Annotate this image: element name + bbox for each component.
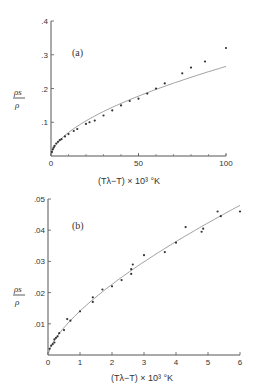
data-point (121, 279, 123, 281)
fit-line (51, 66, 226, 156)
data-point (146, 92, 148, 94)
x-tick-label: 0 (49, 159, 54, 168)
data-point (92, 301, 94, 303)
data-point (58, 332, 60, 334)
data-point (130, 273, 132, 275)
y-tick-label: .04 (34, 226, 46, 235)
svg-text:ρs: ρs (13, 87, 22, 97)
data-point (79, 310, 81, 312)
data-point (92, 296, 94, 298)
data-point (60, 138, 62, 140)
data-point (129, 100, 131, 102)
data-point (137, 98, 139, 100)
data-point (57, 141, 59, 143)
y-tick-label: .4 (41, 17, 48, 26)
figure: (a) ρs ρ .1.2.3.4050100 (Tλ−T) × 10³ °K … (0, 0, 268, 389)
y-tick-label: .01 (34, 320, 46, 329)
data-point (50, 345, 52, 347)
data-point (53, 338, 55, 340)
y-tick-label: .1 (41, 118, 48, 127)
data-point (67, 133, 69, 135)
data-point (225, 47, 227, 49)
data-point (73, 130, 75, 132)
data-point (66, 318, 68, 320)
y-tick-label: .05 (34, 195, 46, 204)
y-axis-label-b: ρs ρ (13, 284, 25, 307)
data-point (164, 82, 166, 84)
x-tick-label: 100 (219, 159, 233, 168)
y-axis-label-a: ρs ρ (13, 87, 25, 110)
y-tick-label: .02 (34, 289, 46, 298)
data-point (63, 329, 65, 331)
data-point (111, 285, 113, 287)
data-point (101, 288, 103, 290)
data-point (217, 210, 219, 212)
x-tick-label: 50 (134, 159, 143, 168)
data-point (201, 231, 203, 233)
x-tick-label: 5 (206, 358, 211, 367)
chart-panel-b: (b) ρs ρ .01.02.03.04.050123456 (Tλ−T) ×… (13, 195, 243, 383)
data-point (85, 123, 87, 125)
data-point (155, 87, 157, 89)
y-tick-label: .03 (34, 257, 46, 266)
data-point (239, 210, 241, 212)
data-point (120, 104, 122, 106)
data-point (51, 151, 53, 153)
data-point (57, 335, 59, 337)
x-tick-label: 6 (238, 358, 243, 367)
data-point (175, 242, 177, 244)
data-point (202, 228, 204, 230)
data-point (53, 341, 55, 343)
chart-panel-a: (a) ρs ρ .1.2.3.4050100 (Tλ−T) × 10³ °K (13, 17, 233, 186)
data-point (64, 135, 66, 137)
svg-text:ρ: ρ (14, 100, 20, 110)
x-tick-label: 4 (174, 358, 179, 367)
data-point (53, 145, 55, 147)
axes-a: .1.2.3.4050100 (41, 17, 233, 168)
data-point (190, 66, 192, 68)
data-point (143, 254, 145, 256)
data-point (88, 121, 90, 123)
svg-text:ρs: ρs (13, 284, 22, 294)
panel-a-label: (a) (72, 47, 83, 59)
data-point (52, 343, 54, 345)
data-point (55, 142, 57, 144)
data-point (132, 263, 134, 265)
x-tick-label: 1 (78, 358, 83, 367)
x-tick-label: 0 (46, 358, 51, 367)
data-point (204, 60, 206, 62)
x-tick-label: 3 (142, 358, 147, 367)
data-point (102, 114, 104, 116)
data-series-a (51, 47, 227, 156)
data-point (130, 268, 132, 270)
data-point (111, 109, 113, 111)
x-axis-label-b: (Tλ−T) × 10³ °K (111, 373, 173, 383)
data-point (185, 226, 187, 228)
data-point (49, 348, 51, 350)
data-point (181, 72, 183, 74)
panel-b-label: (b) (72, 220, 84, 232)
data-point (55, 337, 57, 339)
data-point (220, 215, 222, 217)
data-point (94, 119, 96, 121)
y-tick-label: .3 (41, 51, 48, 60)
data-point (69, 320, 71, 322)
data-point (164, 251, 166, 253)
x-axis-label-a: (Tλ−T) × 10³ °K (98, 176, 160, 186)
data-point (76, 128, 78, 130)
x-tick-label: 2 (110, 358, 115, 367)
svg-text:ρ: ρ (14, 297, 20, 307)
y-tick-label: .2 (41, 85, 48, 94)
